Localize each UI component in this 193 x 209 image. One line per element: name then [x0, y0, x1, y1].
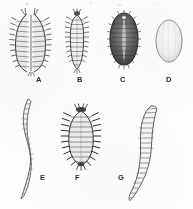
specimen-d [152, 17, 186, 65]
scan-artifact-strip [0, 0, 193, 7]
figure-label-a: A [36, 76, 42, 84]
figure-label-b: B [77, 76, 83, 84]
specimen-e [14, 97, 42, 202]
specimen-f [59, 103, 103, 171]
figure-label-f: F [75, 174, 80, 182]
figure-label-c: C [120, 76, 126, 84]
specimen-a [8, 7, 54, 77]
illustration-plate: A [0, 0, 193, 209]
figure-label-g: G [118, 174, 124, 182]
specimen-c [106, 10, 142, 72]
figure-label-d: D [166, 76, 172, 84]
specimen-b [63, 9, 91, 75]
specimen-g [127, 104, 163, 204]
figure-label-e: E [40, 174, 45, 182]
